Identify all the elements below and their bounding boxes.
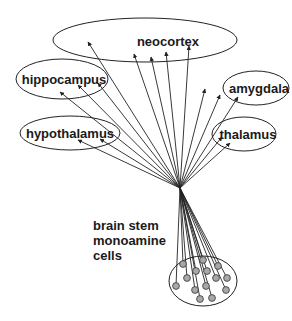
monoamine-cell — [203, 283, 210, 290]
region-label-hypothalamus: hypothalamus — [26, 126, 114, 141]
cell-axon — [180, 188, 200, 299]
region-label-neocortex: neocortex — [137, 34, 200, 49]
brain-stem-monoamine-cells-label: brain stemmonoaminecells — [93, 218, 166, 263]
projection-arrow — [180, 46, 189, 188]
monoamine-cell — [173, 283, 180, 290]
monoamine-cell — [192, 287, 199, 294]
monoamine-cell — [200, 257, 207, 264]
source-label-line: cells — [93, 248, 122, 263]
region-label-amygdala: amygdala — [229, 81, 290, 96]
monoamine-cell — [204, 268, 211, 275]
monoamine-cell — [209, 295, 216, 302]
source-label-line: monoamine — [93, 233, 166, 248]
region-label-hippocampus: hippocampus — [22, 72, 107, 87]
monoamine-cell — [197, 296, 204, 303]
projection-arrow — [100, 139, 180, 188]
cell-axon — [176, 188, 180, 286]
monoamine-cell — [223, 287, 230, 294]
projection-arrow — [180, 97, 238, 188]
monoamine-cell — [213, 275, 220, 282]
monoamine-cell — [180, 261, 187, 268]
brain-stem-cell-cluster — [169, 256, 237, 306]
region-labels: neocortexhippocampusamygdalahypothalamus… — [22, 34, 290, 142]
region-label-thalamus: thalamus — [219, 127, 276, 142]
monoamine-cell — [193, 268, 200, 275]
monoamine-cell — [184, 275, 191, 282]
source-label-line: brain stem — [93, 218, 159, 233]
monoamine-cell — [224, 275, 231, 282]
projection-arrow — [180, 143, 230, 188]
monoamine-cell — [215, 263, 222, 270]
monoamine-projection-diagram: neocortexhippocampusamygdalahypothalamus… — [0, 0, 292, 321]
